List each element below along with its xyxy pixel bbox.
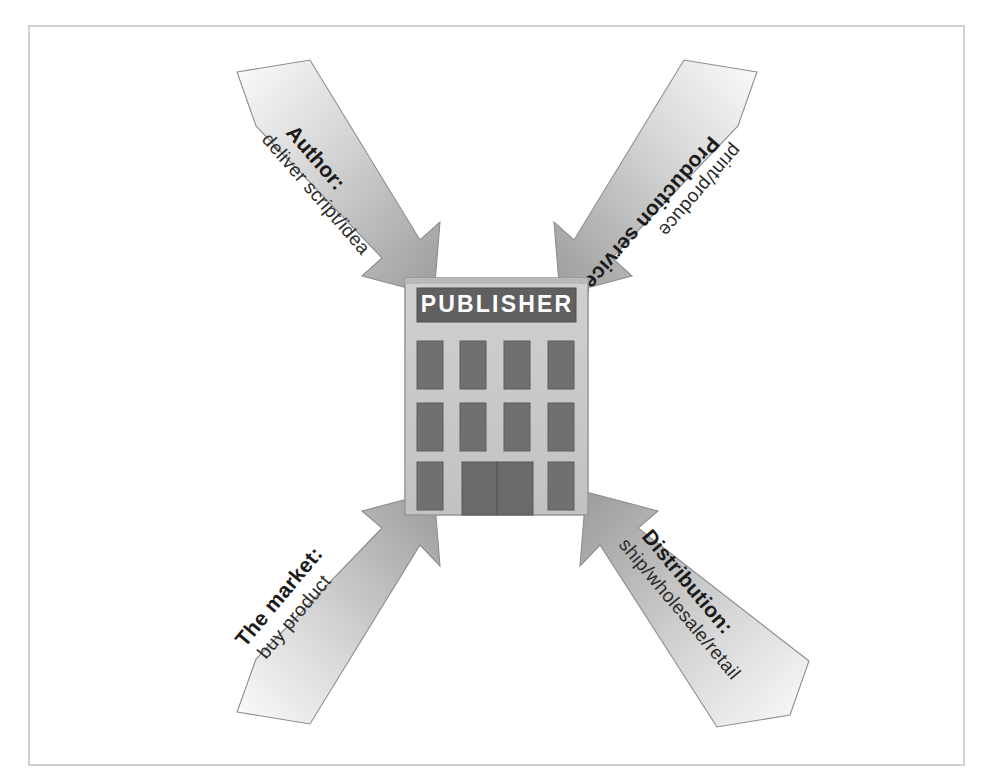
building-window — [460, 341, 486, 389]
building-window — [548, 403, 574, 451]
arrow-distribution: Distribution: ship/wholesale/retail — [580, 492, 809, 727]
building-window — [417, 403, 443, 451]
building-window — [417, 341, 443, 389]
building-window — [548, 462, 574, 510]
publisher-value-chain-diagram: Author: deliver script/idea Production s… — [0, 0, 985, 784]
arrow-production-services: Production services: print/produce — [554, 60, 757, 309]
building-door-left[interactable] — [462, 462, 497, 515]
building-door-right[interactable] — [497, 462, 533, 515]
building-roof-band — [405, 278, 588, 284]
building-window — [504, 341, 530, 389]
arrow-the-market: The market: buy product — [230, 492, 440, 724]
building-window — [460, 403, 486, 451]
arrow-author: Author: deliver script/idea — [237, 60, 440, 295]
building-window — [504, 403, 530, 451]
building-window — [417, 462, 443, 510]
diagram-canvas: Author: deliver script/idea Production s… — [0, 0, 985, 784]
building-window — [548, 341, 574, 389]
publisher-sign-label: PUBLISHER — [421, 291, 574, 317]
publisher-building: PUBLISHER — [405, 278, 588, 515]
